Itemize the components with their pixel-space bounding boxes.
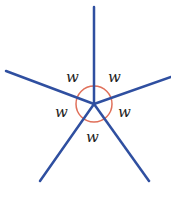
angle-label-top-left: w xyxy=(66,68,79,86)
angles-diagram: w w w w w xyxy=(0,0,171,197)
angle-label-bottom: w xyxy=(86,128,99,146)
ray-left xyxy=(6,71,94,104)
angle-label-left: w xyxy=(55,103,68,121)
angle-label-right: w xyxy=(118,103,131,121)
angle-label-top-right: w xyxy=(108,68,121,86)
